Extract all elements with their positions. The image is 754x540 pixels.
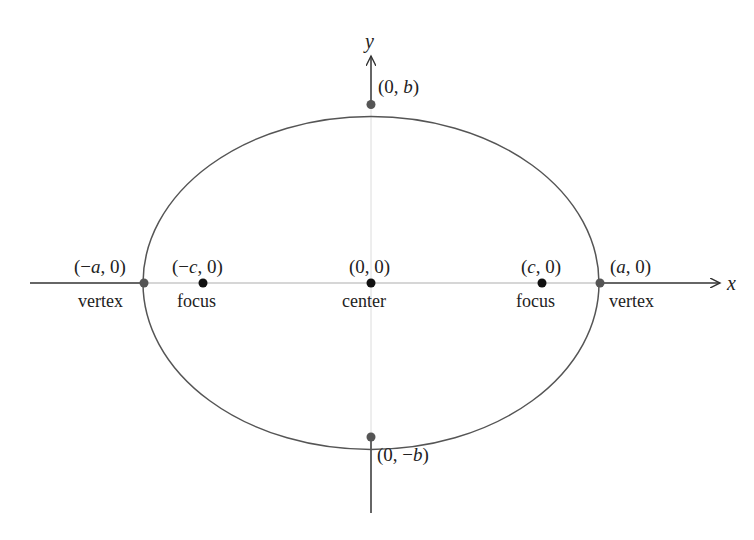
right-focus-label: focus <box>516 292 555 310</box>
right-focus-dot <box>538 279 547 288</box>
top-covertex-dot <box>367 100 376 109</box>
right-vertex-coords: (a, 0) <box>610 257 651 276</box>
center-coords: (0, 0) <box>349 257 390 276</box>
left-focus-dot <box>199 279 208 288</box>
y-axis-label: y <box>365 31 374 51</box>
left-vertex-coords: (−a, 0) <box>74 257 126 276</box>
left-vertex-label: vertex <box>78 292 123 310</box>
right-focus-coords: (c, 0) <box>521 257 561 276</box>
right-vertex-label: vertex <box>609 292 654 310</box>
left-focus-coords: (−c, 0) <box>172 257 223 276</box>
left-focus-label: focus <box>177 292 216 310</box>
center-dot <box>367 279 376 288</box>
x-axis-label: x <box>727 273 736 293</box>
ellipse-diagram: y x (0, b) (0, −b) (−a, 0) vertex (−c, 0… <box>0 0 754 540</box>
top-covertex-label: (0, b) <box>378 77 419 96</box>
right-vertex-dot <box>596 279 605 288</box>
center-label: center <box>342 292 386 310</box>
bottom-covertex-dot <box>367 433 376 442</box>
bottom-covertex-label: (0, −b) <box>377 445 429 464</box>
left-vertex-dot <box>140 279 149 288</box>
